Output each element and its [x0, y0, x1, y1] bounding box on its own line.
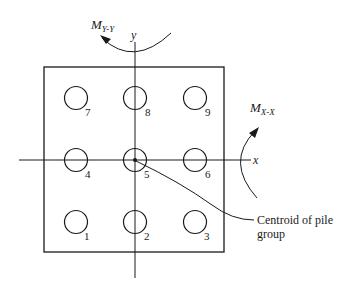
pile-group-diagram: y x 7 8 9 4 5 6 1 2 3 MY-Y [0, 0, 346, 286]
callout-line-1: Centroid of pile [257, 213, 333, 227]
pile-label: 2 [144, 230, 150, 242]
pile-8: 8 [124, 87, 152, 119]
pile-label: 7 [85, 106, 91, 118]
centroid-callout: Centroid of pile [257, 213, 333, 227]
pile-6: 6 [184, 149, 212, 181]
pile-4: 4 [65, 149, 92, 181]
pile-2: 2 [124, 211, 150, 243]
pile-label: 6 [205, 168, 211, 180]
pile-label: 9 [205, 106, 211, 118]
moment-yy-label: MY-Y [90, 17, 115, 34]
moment-xx-label: MX-X [249, 100, 275, 117]
pile-label: 8 [145, 106, 151, 118]
pile-5: 5 [124, 149, 151, 181]
pile-label: 4 [85, 168, 91, 180]
y-axis-label: y [130, 28, 137, 42]
centroid-leader-line [136, 161, 254, 220]
pile-label: 1 [84, 230, 90, 242]
pile-circle [184, 87, 207, 110]
pile-label: 3 [204, 230, 210, 242]
moment-yy-arc [102, 33, 171, 52]
pile-7: 7 [65, 87, 92, 119]
x-axis-label: x [252, 153, 259, 167]
pile-9: 9 [184, 87, 212, 119]
pile-label: 5 [144, 168, 150, 180]
centroid-callout-line-2: group [257, 227, 285, 241]
moment-xx: MX-X [240, 100, 275, 198]
moment-xx-subscript: X-X [260, 107, 275, 117]
pile-1: 1 [65, 211, 90, 243]
moment-yy-arrowhead-icon [100, 35, 111, 44]
pile-3: 3 [184, 211, 211, 243]
moment-yy-subscript: Y-Y [102, 24, 115, 34]
